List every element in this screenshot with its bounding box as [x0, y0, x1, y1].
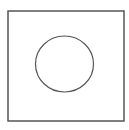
outer-square	[8, 11, 124, 121]
diagram-canvas	[0, 0, 129, 130]
